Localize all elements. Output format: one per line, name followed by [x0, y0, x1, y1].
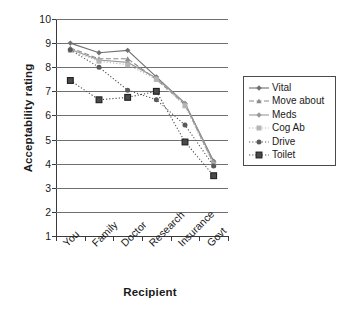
y-tick-label: 6: [45, 110, 51, 121]
legend-item-drive[interactable]: Drive: [248, 135, 332, 149]
x-tick-mark: [56, 236, 57, 241]
series-line: [70, 43, 213, 161]
legend-label: Meds: [270, 110, 296, 120]
data-point: [96, 97, 102, 103]
legend-item-vital[interactable]: Vital: [248, 81, 332, 95]
x-tick-mark: [113, 236, 114, 241]
legend-label: Cog Ab: [270, 123, 305, 133]
data-point: [182, 139, 188, 145]
legend-symbol-circle-icon: [248, 136, 270, 148]
legend-symbol-triangle-icon: [248, 95, 270, 107]
series-line: [70, 50, 213, 166]
legend-symbol-diamond-icon: [248, 82, 270, 94]
series-line: [70, 80, 213, 175]
data-point: [154, 97, 159, 102]
legend-item-toilet[interactable]: Toilet: [248, 149, 332, 163]
series-line: [70, 48, 213, 164]
y-tick-label: 7: [45, 86, 51, 97]
series-vital: [68, 40, 217, 164]
data-point: [154, 77, 159, 82]
legend-label: Vital: [270, 83, 291, 93]
y-axis-title: Acceptability rating: [22, 38, 34, 198]
y-tick-label: 2: [45, 207, 51, 218]
chart-figure: Acceptability rating 12345678910 YouFami…: [0, 0, 345, 312]
data-point: [125, 62, 130, 67]
y-tick-label: 5: [45, 134, 51, 145]
x-tick-mark: [142, 236, 143, 241]
series-cog-ab: [68, 48, 216, 168]
data-point: [68, 47, 73, 52]
y-tick-label: 3: [45, 183, 51, 194]
data-point: [153, 88, 159, 94]
y-tick-label: 8: [45, 62, 51, 73]
series-toilet: [67, 78, 216, 179]
legend-item-cog-ab[interactable]: Cog Ab: [248, 122, 332, 136]
legend-symbol-diamond-icon: [248, 109, 270, 121]
data-point: [183, 103, 188, 108]
data-point: [67, 78, 73, 84]
data-series-layer: [56, 19, 228, 236]
x-tick-mark: [171, 236, 172, 241]
x-axis-title: Recipient: [60, 286, 240, 298]
y-tick-label: 9: [45, 38, 51, 49]
y-tick-label: 10: [39, 14, 51, 25]
data-point: [125, 88, 130, 93]
legend-label: Toilet: [270, 150, 295, 160]
legend-symbol-squarefill-icon: [248, 149, 270, 161]
legend-label: Move about: [270, 96, 324, 106]
chart-legend: VitalMove aboutMedsCog AbDriveToilet: [243, 76, 336, 166]
data-point: [97, 59, 102, 64]
data-point: [68, 40, 73, 45]
data-point: [125, 94, 131, 100]
x-tick-mark: [85, 236, 86, 241]
legend-label: Drive: [270, 137, 295, 147]
x-tick-mark: [228, 236, 229, 241]
legend-item-move-about[interactable]: Move about: [248, 95, 332, 109]
legend-symbol-square-icon: [248, 122, 270, 134]
plot-area: 12345678910 YouFamilyDoctorResearchInsur…: [56, 19, 228, 236]
x-tick-mark: [199, 236, 200, 241]
data-point: [183, 123, 188, 128]
series-line: [70, 50, 213, 165]
series-line: [70, 49, 213, 162]
legend-item-meds[interactable]: Meds: [248, 108, 332, 122]
data-point: [96, 50, 101, 55]
data-point: [211, 173, 217, 179]
series-drive: [68, 47, 216, 168]
data-point: [97, 65, 102, 70]
y-tick-label: 1: [45, 231, 51, 242]
y-tick-label: 4: [45, 158, 51, 169]
data-point: [211, 164, 216, 169]
